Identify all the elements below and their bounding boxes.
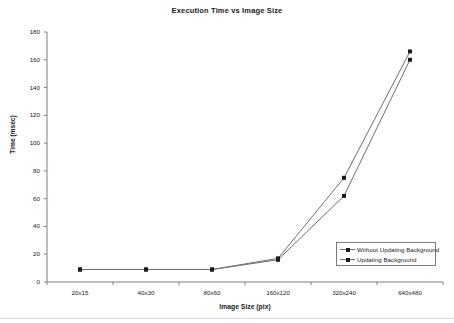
legend-label-series-1: Updating Background bbox=[357, 256, 417, 263]
data-point-marker bbox=[408, 49, 412, 53]
x-axis-title: Image Size (pix) bbox=[47, 303, 443, 310]
data-point-marker bbox=[342, 176, 346, 180]
legend-marker-square-icon bbox=[340, 256, 355, 263]
legend-item-series-0: Without Updating Background bbox=[340, 245, 439, 255]
scan-artifact-line bbox=[0, 318, 454, 319]
data-point-marker bbox=[276, 256, 280, 260]
data-point-marker bbox=[408, 58, 412, 62]
data-point-marker bbox=[78, 268, 82, 272]
plot-area bbox=[0, 0, 454, 323]
series-line-1 bbox=[80, 51, 410, 269]
data-point-marker bbox=[342, 194, 346, 198]
series-line-0 bbox=[80, 60, 410, 270]
legend-item-series-1: Updating Background bbox=[340, 255, 417, 265]
chart-container: Execution Time vs Image Size Time (msec)… bbox=[0, 0, 454, 323]
chart-legend: Without Updating Background Updating Bac… bbox=[336, 242, 436, 266]
data-point-marker bbox=[144, 268, 148, 272]
legend-marker-square-icon bbox=[340, 246, 355, 253]
data-point-marker bbox=[210, 268, 214, 272]
legend-label-series-0: Without Updating Background bbox=[357, 246, 439, 253]
